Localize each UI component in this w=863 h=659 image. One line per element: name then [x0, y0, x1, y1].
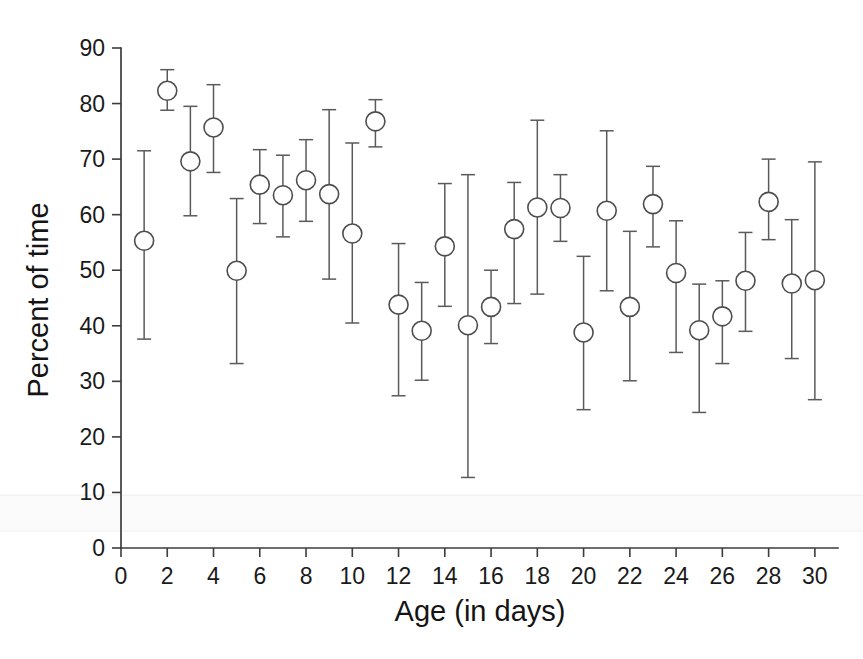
x-tick-label: 22 [617, 563, 643, 589]
chart-figure: 0102030405060708090 02468101214161820222… [0, 0, 863, 659]
x-tick-label: 24 [663, 563, 689, 589]
x-tick-label: 14 [432, 563, 458, 589]
data-point-marker [713, 307, 732, 326]
data-point-marker [273, 186, 292, 205]
x-tick-label: 28 [756, 563, 782, 589]
y-tick-label: 40 [79, 313, 105, 339]
x-tick-label: 16 [478, 563, 504, 589]
y-tick-label: 20 [79, 424, 105, 450]
x-tick-label: 8 [300, 563, 313, 589]
data-point-marker [158, 81, 177, 100]
x-tick-label: 20 [571, 563, 597, 589]
data-point-marker [759, 192, 778, 211]
data-point-marker [528, 198, 547, 217]
data-point-marker [204, 118, 223, 137]
y-tick-label: 30 [79, 368, 105, 394]
data-point-marker [458, 316, 477, 335]
x-axis-title: Age (in days) [395, 595, 566, 627]
data-point-marker [620, 297, 639, 316]
y-tick-label: 0 [92, 535, 105, 561]
scatter-plot-with-error-bars: 0102030405060708090 02468101214161820222… [0, 0, 863, 659]
y-tick-label: 70 [79, 146, 105, 172]
y-tick-label: 60 [79, 202, 105, 228]
x-tick-label: 6 [253, 563, 266, 589]
data-point-marker [320, 185, 339, 204]
y-tick-label: 80 [79, 91, 105, 117]
data-point-marker [389, 295, 408, 314]
x-tick-label: 0 [115, 563, 128, 589]
scan-artifact-band [0, 495, 863, 531]
y-axis-title: Percent of time [22, 202, 54, 397]
y-tick-label: 10 [79, 479, 105, 505]
data-point-marker [482, 297, 501, 316]
data-point-marker [782, 274, 801, 293]
data-point-marker [343, 224, 362, 243]
data-point-marker [297, 171, 316, 190]
x-tick-label: 12 [386, 563, 412, 589]
x-tick-label: 10 [339, 563, 365, 589]
data-point-marker [551, 199, 570, 218]
data-point-marker [135, 231, 154, 250]
data-point-marker [736, 271, 755, 290]
x-tick-label: 2 [161, 563, 174, 589]
x-tick-label: 4 [207, 563, 220, 589]
data-point-marker [250, 175, 269, 194]
data-point-marker [690, 321, 709, 340]
data-point-marker [366, 112, 385, 131]
data-point-marker [574, 323, 593, 342]
x-tick-label: 26 [710, 563, 736, 589]
data-point-marker [227, 261, 246, 280]
data-point-marker [435, 237, 454, 256]
x-tick-label: 18 [525, 563, 551, 589]
x-tick-label: 30 [802, 563, 828, 589]
data-point-marker [505, 220, 524, 239]
data-point-marker [667, 264, 686, 283]
data-point-marker [597, 201, 616, 220]
data-point-marker [643, 195, 662, 214]
data-point-marker [181, 152, 200, 171]
data-point-marker [412, 321, 431, 340]
data-point-marker [805, 271, 824, 290]
y-tick-label: 50 [79, 257, 105, 283]
y-tick-label: 90 [79, 35, 105, 61]
